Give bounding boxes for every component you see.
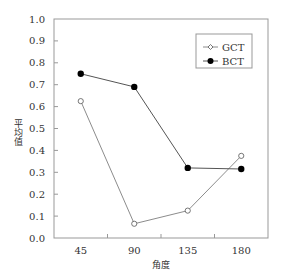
y-tick-label: 0.4 <box>29 145 45 156</box>
data-point <box>185 165 191 171</box>
data-point <box>78 71 84 77</box>
data-point <box>239 153 244 158</box>
filled-circle-marker-icon <box>208 58 214 64</box>
y-axis-title: 平均值 <box>13 119 23 146</box>
x-tick-label: 45 <box>74 245 87 256</box>
data-point <box>78 99 83 104</box>
legend-label-gct: GCT <box>222 42 245 53</box>
x-tick-label: 90 <box>128 245 141 256</box>
y-tick-label: 0.3 <box>29 167 45 178</box>
y-tick-label: 0.1 <box>29 211 45 222</box>
y-tick-label: 0.9 <box>29 35 45 46</box>
legend-label-bct: BCT <box>222 56 244 67</box>
line-chart: 0.00.10.20.30.40.50.60.70.80.91.0 459013… <box>0 0 283 279</box>
x-tick-label: 135 <box>178 245 197 256</box>
y-tick-label: 0.8 <box>29 57 45 68</box>
y-tick-label: 1.0 <box>29 14 45 25</box>
data-point <box>131 84 137 90</box>
y-tick-label: 0.5 <box>29 123 45 134</box>
x-axis-title: 角度 <box>152 259 170 270</box>
y-tick-label: 0.2 <box>29 189 45 200</box>
y-tick-label: 0.7 <box>29 79 45 90</box>
data-point <box>132 221 137 226</box>
legend: GCT BCT <box>196 34 252 68</box>
y-tick-label: 0.0 <box>29 233 45 244</box>
y-tick-label: 0.6 <box>29 101 45 112</box>
x-tick-label: 180 <box>232 245 251 256</box>
data-point <box>238 166 244 172</box>
data-point <box>185 208 190 213</box>
